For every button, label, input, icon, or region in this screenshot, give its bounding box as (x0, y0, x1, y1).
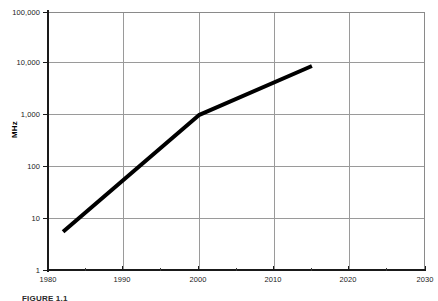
x-tick-mark-1980 (48, 266, 49, 271)
gridline-h-10 (49, 218, 424, 219)
plot-area (48, 12, 425, 270)
gridline-v-2010 (274, 13, 275, 269)
x-tick-mark-2000 (198, 266, 199, 271)
y-tick-label-10: 10 (31, 214, 40, 223)
x-tick-label-1990: 1990 (102, 275, 142, 284)
x-tick-label-2020: 2020 (328, 275, 368, 284)
x-tick-mark-2005 (236, 268, 237, 271)
x-tick-mark-1985 (85, 268, 86, 271)
gridline-v-1990 (123, 13, 124, 269)
figure-container: MHz 100,000 10,000 1,000 100 10 1 1980 1… (0, 0, 438, 301)
x-tick-label-2010: 2010 (253, 275, 293, 284)
y-axis-title: MHz (10, 121, 19, 138)
x-tick-mark-2020 (348, 266, 349, 271)
x-tick-mark-2025 (386, 268, 387, 271)
x-tick-mark-1995 (160, 268, 161, 271)
x-tick-mark-2030 (425, 266, 426, 271)
gridline-h-100 (49, 166, 424, 167)
y-tick-label-1000: 1,000 (21, 110, 40, 119)
gridline-v-2000 (199, 13, 200, 269)
y-tick-label-100: 100 (27, 162, 40, 171)
x-tick-mark-1990 (122, 266, 123, 271)
x-tick-label-2030: 2030 (405, 275, 438, 284)
gridline-h-10000 (49, 62, 424, 63)
y-tick-label-10000: 10,000 (16, 58, 40, 67)
x-tick-label-2000: 2000 (178, 275, 218, 284)
y-axis-spine (47, 10, 49, 272)
figure-caption: FIGURE 1.1 (22, 294, 68, 301)
y-tick-label-1: 1 (36, 266, 40, 275)
gridline-v-2020 (349, 13, 350, 269)
x-tick-mark-2015 (311, 268, 312, 271)
x-tick-mark-2010 (273, 266, 274, 271)
y-tick-label-100000: 100,000 (12, 8, 40, 17)
gridline-h-1000 (49, 114, 424, 115)
x-tick-label-1980: 1980 (28, 275, 68, 284)
